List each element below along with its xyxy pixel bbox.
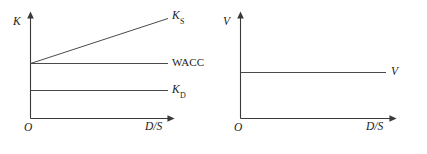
right-x-axis-label: D/S: [366, 121, 383, 133]
left-x-axis-label: D/S: [145, 121, 162, 133]
series-label-kd: KD: [172, 84, 185, 98]
right-y-axis-label: V: [223, 16, 230, 28]
figure-container: K D/S O KS WACC KD: [0, 0, 427, 154]
left-y-axis-label: K: [13, 16, 21, 28]
series-label-ks-main: K: [172, 9, 180, 21]
chart-panel-left: K D/S O KS WACC KD: [0, 0, 214, 154]
series-label-kd-sub: D: [180, 91, 186, 100]
series-label-v: V: [391, 66, 398, 78]
chart-panel-right: V D/S O V: [214, 0, 427, 154]
series-label-ks: KS: [172, 10, 184, 24]
right-origin-label: O: [234, 122, 242, 134]
series-label-kd-main: K: [172, 83, 180, 95]
left-origin-label: O: [24, 122, 32, 134]
series-label-wacc: WACC: [172, 57, 204, 68]
series-label-ks-sub: S: [180, 17, 184, 26]
series-line-ks: [31, 19, 169, 64]
